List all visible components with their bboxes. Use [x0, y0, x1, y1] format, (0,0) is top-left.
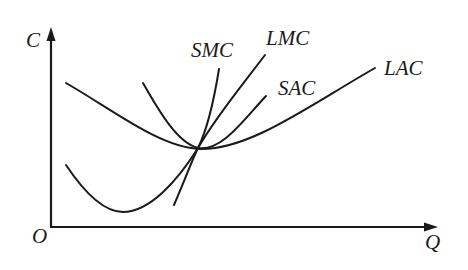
sac-label: SAC	[278, 76, 316, 100]
smc-curve	[66, 69, 219, 212]
cost-curves-diagram: C O Q SMC LMC SAC LAC	[0, 0, 468, 270]
lmc-label: LMC	[265, 26, 310, 50]
smc-label: SMC	[191, 38, 234, 62]
lac-label: LAC	[383, 56, 424, 80]
y-axis-arrow-icon	[47, 27, 56, 41]
x-axis-label: Q	[425, 230, 440, 254]
origin-label: O	[32, 224, 47, 248]
lac-curve	[66, 68, 375, 149]
y-axis-label: C	[26, 28, 41, 52]
axes	[47, 27, 439, 232]
lmc-curve	[174, 55, 265, 205]
